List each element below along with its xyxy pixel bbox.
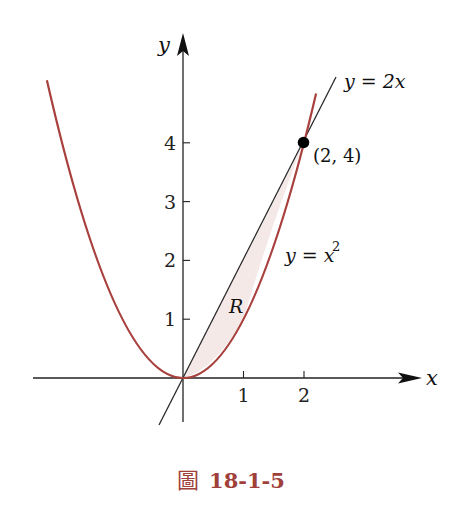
- caption-prefix: 圖: [177, 468, 199, 493]
- caption-number: 18-1-5: [209, 468, 285, 493]
- figure-caption: 圖18-1-5: [0, 462, 462, 494]
- parabola-y-equals-x-squared: [47, 80, 316, 378]
- y-tick-label-2: 2: [164, 249, 176, 271]
- line-label: y = 2x: [343, 70, 406, 92]
- x-tick-label-1: 1: [238, 384, 250, 406]
- y-axis-label: y: [157, 33, 171, 57]
- graph-canvas: y x 1 2 1 2 3 4 y = 2x (2, 4) y = x 2 R: [0, 0, 462, 460]
- parabola-label-exponent: 2: [332, 239, 340, 254]
- y-tick-label-3: 3: [164, 191, 176, 213]
- y-tick-label-4: 4: [164, 132, 176, 154]
- x-axis-label: x: [426, 366, 438, 390]
- figure-18-1-5: y x 1 2 1 2 3 4 y = 2x (2, 4) y = x 2 R …: [0, 0, 462, 509]
- region-label: R: [228, 295, 243, 317]
- y-tick-label-1: 1: [164, 308, 176, 330]
- point-label: (2, 4): [313, 145, 361, 166]
- x-tick-label-2: 2: [298, 384, 310, 406]
- intersection-point: [298, 137, 310, 149]
- parabola-label: y = x: [284, 244, 335, 266]
